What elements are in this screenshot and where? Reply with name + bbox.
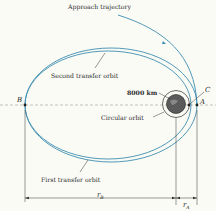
point-a-label: A: [199, 98, 205, 106]
first-orbit-leader: [80, 160, 88, 172]
point-b-marker: [24, 104, 27, 107]
point-a-marker: [196, 104, 199, 107]
radius-leader: [159, 93, 170, 99]
rb-label: rB: [97, 191, 104, 200]
point-c-label: C: [205, 86, 211, 94]
circular-orbit-label: Circular orbit: [101, 114, 144, 121]
point-c-marker: [188, 104, 191, 107]
approach-arrow-icon: [162, 41, 166, 44]
radius-label: 8000 km: [127, 89, 158, 96]
ra-label: rA: [183, 201, 190, 210]
point-b-label: B: [16, 96, 22, 104]
circular-orbit-leader: [153, 112, 164, 117]
approach-label: Approach trajectory: [67, 3, 132, 11]
first-orbit-label: First transfer orbit: [41, 176, 101, 183]
second-orbit-label: Second transfer orbit: [51, 72, 119, 79]
second-orbit-leader: [95, 53, 105, 68]
planet: [167, 95, 186, 114]
orbit-diagram: Approach trajectory Second transfer orbi…: [0, 0, 216, 211]
